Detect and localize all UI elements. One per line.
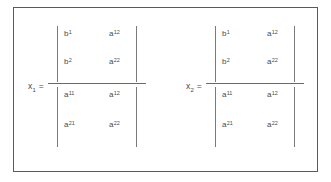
matrix-cell-r2c2: a22 xyxy=(97,54,136,82)
matrix-cell-r2c2: a22 xyxy=(97,117,136,147)
cell-subscript: 12 xyxy=(272,90,278,96)
determinant-right-bar-icon xyxy=(136,26,137,82)
matrix-cell-r2c2: a22 xyxy=(255,54,294,82)
determinant-right-bar-icon xyxy=(136,87,137,147)
cell-subscript: 2 xyxy=(69,57,72,63)
equation-x1: x1= b1 a12 b2 a22 a11 a12 a21 xyxy=(28,26,146,147)
cell-subscript: 2 xyxy=(227,57,230,63)
variable-subscript: 2 xyxy=(190,86,193,92)
determinant-grid: a11 a12 a21 a22 xyxy=(216,87,294,147)
determinant-right-bar-icon xyxy=(294,87,295,147)
matrix-cell-r1c1: b1 xyxy=(216,26,255,54)
fraction-x2: b1 a12 b2 a22 a11 a12 a21 a22 xyxy=(206,26,304,147)
matrix-cell-r2c1: b2 xyxy=(216,54,255,82)
matrix-cell-r2c1: a21 xyxy=(58,117,97,147)
matrix-cell-r1c1: a11 xyxy=(58,87,97,117)
cell-subscript: 21 xyxy=(69,120,75,126)
cell-subscript: 12 xyxy=(114,90,120,96)
cell-subscript: 22 xyxy=(114,120,120,126)
cell-subscript: 12 xyxy=(272,29,278,35)
denominator-determinant-x2: a11 a12 a21 a22 xyxy=(215,87,295,147)
matrix-cell-r2c2: a22 xyxy=(255,117,294,147)
determinant-grid: b1 a12 b2 a22 xyxy=(58,26,136,82)
cell-subscript: 11 xyxy=(227,90,233,96)
cell-subscript: 12 xyxy=(114,29,120,35)
cell-subscript: 11 xyxy=(69,90,75,96)
matrix-cell-r1c2: a12 xyxy=(255,26,294,54)
matrix-cell-r1c2: a12 xyxy=(97,87,136,117)
cell-subscript: 22 xyxy=(114,57,120,63)
determinant-grid: b1 a12 b2 a22 xyxy=(216,26,294,82)
equation-label-x1: x1= xyxy=(28,81,44,93)
variable-subscript: 1 xyxy=(32,86,35,92)
cell-subscript: 1 xyxy=(69,29,72,35)
matrix-cell-r1c1: a11 xyxy=(216,87,255,117)
fraction-bar-x2 xyxy=(206,83,304,84)
cell-subscript: 22 xyxy=(272,57,278,63)
determinant-right-bar-icon xyxy=(294,26,295,82)
numerator-determinant-x2: b1 a12 b2 a22 xyxy=(215,26,295,82)
numerator-determinant-x1: b1 a12 b2 a22 xyxy=(57,26,137,82)
fraction-bar-x1 xyxy=(48,83,146,84)
equals-sign: = xyxy=(197,81,202,91)
equation-label-x2: x2= xyxy=(186,81,202,93)
cell-subscript: 1 xyxy=(227,29,230,35)
denominator-determinant-x1: a11 a12 a21 a22 xyxy=(57,87,137,147)
cell-subscript: 21 xyxy=(227,120,233,126)
matrix-cell-r1c2: a12 xyxy=(255,87,294,117)
equation-x2: x2= b1 a12 b2 a22 a11 a12 a21 xyxy=(186,26,304,147)
fraction-x1: b1 a12 b2 a22 a11 a12 a21 a22 xyxy=(48,26,146,147)
matrix-cell-r1c1: b1 xyxy=(58,26,97,54)
matrix-cell-r2c1: a21 xyxy=(216,117,255,147)
figure-frame: x1= b1 a12 b2 a22 a11 a12 a21 xyxy=(13,7,318,172)
matrix-cell-r1c2: a12 xyxy=(97,26,136,54)
cell-subscript: 22 xyxy=(272,120,278,126)
matrix-cell-r2c1: b2 xyxy=(58,54,97,82)
determinant-grid: a11 a12 a21 a22 xyxy=(58,87,136,147)
equals-sign: = xyxy=(39,81,44,91)
